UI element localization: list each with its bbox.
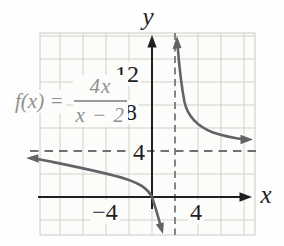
function-graph-figure: y x 12 8 4 −4 4 f(x) = 4x x − 2 — [0, 0, 284, 246]
x-tick-neg4: −4 — [90, 200, 120, 224]
x-tick-4: 4 — [188, 200, 204, 224]
y-tick-4: 4 — [131, 140, 147, 164]
curve-arrow-left-icon — [26, 154, 39, 163]
y-axis-label: y — [142, 4, 153, 29]
formula-fraction: 4x x − 2 — [73, 75, 129, 127]
formula-numerator: 4x — [87, 75, 113, 100]
function-formula: f(x) = 4x x − 2 — [13, 77, 128, 125]
formula-lhs: f(x) = — [13, 90, 66, 113]
formula-denominator: x − 2 — [74, 102, 128, 127]
x-axis-label: x — [260, 182, 271, 207]
plot-area — [40, 33, 255, 235]
